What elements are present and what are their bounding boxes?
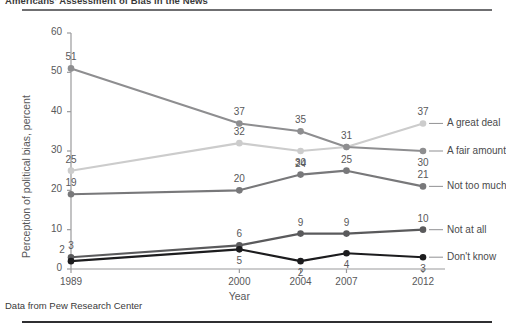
series-label-4: Don't know: [447, 251, 496, 262]
data-point: [297, 171, 304, 178]
leader-lines-layer: [429, 123, 443, 257]
data-point: [343, 230, 350, 237]
data-point: [236, 187, 243, 194]
data-point-label: 9: [288, 217, 314, 228]
series-label-1: A fair amount: [447, 145, 506, 156]
y-tick-label: 60: [38, 26, 62, 37]
data-point-label: 30: [410, 157, 436, 168]
data-point: [420, 120, 427, 127]
data-point: [297, 230, 304, 237]
data-point-label: 9: [333, 217, 359, 228]
data-point: [68, 258, 75, 265]
data-point: [236, 140, 243, 147]
series-label-0: A great deal: [447, 117, 500, 128]
data-point: [297, 258, 304, 265]
data-point-label: 10: [410, 213, 436, 224]
y-tick-label: 40: [38, 105, 62, 116]
data-point-label: 21: [410, 169, 436, 180]
y-axis-title: Perception of political bias, percent: [20, 95, 32, 258]
data-point: [68, 191, 75, 198]
series-label-2: Not too much: [447, 180, 506, 191]
y-tick-label: 10: [38, 223, 62, 234]
data-point-label: 5: [226, 255, 252, 266]
data-point-label: 6: [226, 228, 252, 239]
data-point-label: 51: [58, 51, 84, 62]
data-point: [68, 167, 75, 174]
data-point-label: 37: [410, 106, 436, 117]
data-point-label: 20: [226, 173, 252, 184]
x-tick-label: 2012: [401, 276, 445, 287]
source-note: Data from Pew Research Center: [5, 300, 142, 311]
axes-layer: [67, 33, 445, 273]
data-point: [420, 254, 427, 261]
series-label-3: Not at all: [447, 224, 486, 235]
data-point-label: 3: [410, 263, 436, 274]
y-tick-label: 50: [38, 65, 62, 76]
data-point: [343, 167, 350, 174]
data-point: [297, 148, 304, 155]
data-point-label: 32: [226, 126, 252, 137]
data-point-label: 19: [58, 177, 84, 188]
data-point: [420, 183, 427, 190]
x-axis-title: Year: [217, 290, 261, 302]
data-point-label: 2: [288, 267, 314, 278]
x-tick-label: 1989: [49, 276, 93, 287]
data-point-label: 25: [58, 154, 84, 165]
data-point-label: 37: [226, 106, 252, 117]
data-point: [236, 246, 243, 253]
y-tick-label: 0: [38, 262, 62, 273]
footer-divider: [22, 321, 492, 323]
data-point-label: 35: [288, 114, 314, 125]
data-point: [420, 226, 427, 233]
data-point: [343, 144, 350, 151]
data-point-label: 25: [333, 154, 359, 165]
x-tick-label: 2007: [324, 276, 368, 287]
data-point-label: 4: [333, 259, 359, 270]
data-point-label: 2: [49, 244, 75, 255]
data-point: [68, 65, 75, 72]
data-point-label: 31: [333, 130, 359, 141]
data-point: [420, 148, 427, 155]
data-point-label: 24: [288, 158, 314, 169]
data-point: [343, 250, 350, 257]
data-point: [297, 128, 304, 135]
x-tick-label: 2000: [217, 276, 261, 287]
